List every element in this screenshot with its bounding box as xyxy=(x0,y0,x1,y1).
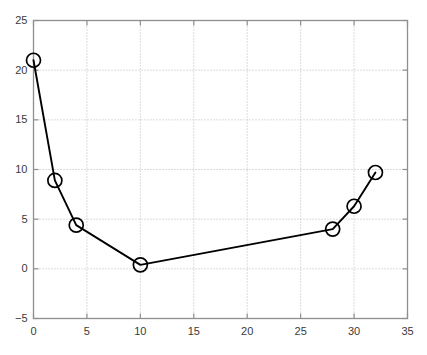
y-tick-label: 0 xyxy=(21,262,27,274)
x-tick-label: 20 xyxy=(241,325,253,337)
x-tick-label: 5 xyxy=(84,325,90,337)
y-tick-label: 10 xyxy=(15,163,27,175)
x-tick-label: 35 xyxy=(401,325,413,337)
x-tick-label: 0 xyxy=(30,325,36,337)
y-tick-label: −5 xyxy=(15,312,28,324)
figure-canvas: −50510152025 05101520253035 xyxy=(0,0,427,355)
x-tick-label: 25 xyxy=(295,325,307,337)
y-tick-label: 25 xyxy=(15,14,27,26)
y-tick-label: 20 xyxy=(15,64,27,76)
x-tick-label: 30 xyxy=(348,325,360,337)
x-tick-label: 15 xyxy=(188,325,200,337)
x-tick-label: 10 xyxy=(134,325,146,337)
y-tick-label: 15 xyxy=(15,113,27,125)
y-tick-label: 5 xyxy=(21,213,27,225)
chart-background xyxy=(0,0,427,355)
line-chart: −50510152025 05101520253035 xyxy=(0,0,427,355)
